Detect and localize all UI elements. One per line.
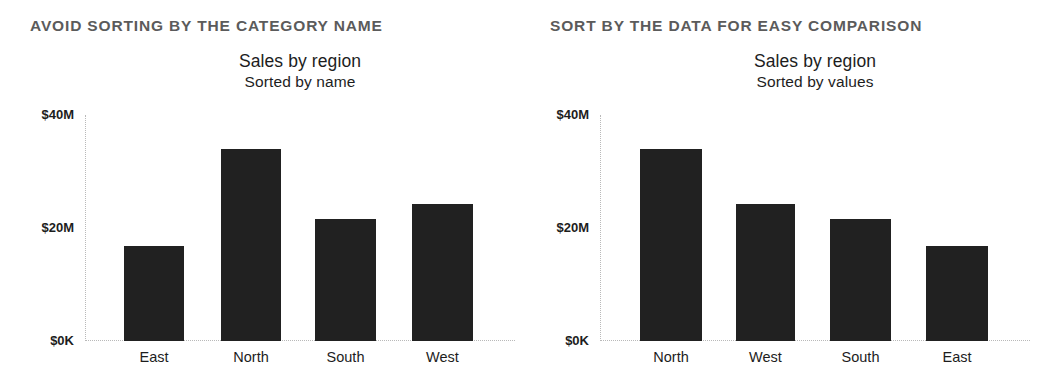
x-axis-category-label: West (390, 349, 495, 365)
chart-subtitle: Sorted by name (85, 72, 515, 92)
chart-title-block: Sales by region Sorted by name (85, 50, 515, 92)
y-axis-tick-label-0k: $0K (565, 334, 589, 348)
bar-slot: North (640, 115, 702, 341)
bar-group: North West South East (600, 115, 1030, 341)
y-axis-tick-label-40m: $40M (556, 108, 589, 122)
bar (640, 149, 702, 341)
bar-slot: South (830, 115, 891, 341)
panel-sort-by-data: SORT BY THE DATA FOR EASY COMPARISON Sal… (521, 0, 1042, 386)
bar-chart-sorted-by-values: $40M $20M $0K North West South Ea (600, 115, 1030, 341)
y-axis-tick-label-20m: $20M (556, 221, 589, 235)
screenshot-root: AVOID SORTING BY THE CATEGORY NAME Sales… (0, 0, 1042, 386)
bar-slot: West (412, 115, 473, 341)
bar (736, 204, 795, 341)
bar (315, 219, 376, 341)
x-axis-category-label: North (618, 349, 724, 365)
y-axis-tick-label-20m: $20M (41, 221, 74, 235)
panel-avoid-sorting-by-name: AVOID SORTING BY THE CATEGORY NAME Sales… (0, 0, 521, 386)
y-axis-tick-label-0k: $0K (50, 334, 74, 348)
bar-slot: East (124, 115, 184, 341)
bar-chart-sorted-by-name: $40M $20M $0K East North South We (85, 115, 515, 341)
x-axis-category-label: South (808, 349, 913, 365)
bar (221, 149, 281, 341)
x-axis-category-label: East (904, 349, 1010, 365)
bar-slot: South (315, 115, 376, 341)
x-axis-category-label: North (199, 349, 303, 365)
bar-slot: East (926, 115, 988, 341)
section-heading: AVOID SORTING BY THE CATEGORY NAME (30, 17, 383, 35)
chart-title-block: Sales by region Sorted by values (600, 50, 1030, 92)
x-axis-category-label: South (293, 349, 398, 365)
bar (412, 204, 473, 341)
section-heading: SORT BY THE DATA FOR EASY COMPARISON (550, 17, 922, 35)
bar (926, 246, 988, 341)
chart-subtitle: Sorted by values (600, 72, 1030, 92)
x-axis-category-label: East (102, 349, 206, 365)
chart-title: Sales by region (85, 50, 515, 72)
y-axis-tick-label-40m: $40M (41, 108, 74, 122)
bar (830, 219, 891, 341)
chart-title: Sales by region (600, 50, 1030, 72)
bar (124, 246, 184, 341)
bar-slot: West (736, 115, 795, 341)
bar-slot: North (221, 115, 281, 341)
x-axis-category-label: West (714, 349, 817, 365)
bar-group: East North South West (85, 115, 515, 341)
